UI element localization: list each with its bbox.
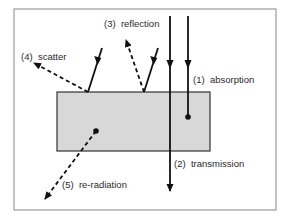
label-reradiation: (5) re-radiation: [62, 179, 127, 190]
label-scatter: (4) scatter: [21, 51, 66, 62]
absorption-point: [185, 114, 191, 120]
radiation-interaction-diagram: (3) reflection (4) scatter (1) absorptio…: [0, 0, 288, 222]
label-transmission: (2) transmission: [174, 158, 244, 169]
label-absorption: (1) absorption: [193, 74, 254, 85]
label-reflection: (3) reflection: [104, 18, 159, 29]
medium-block: [57, 92, 210, 151]
